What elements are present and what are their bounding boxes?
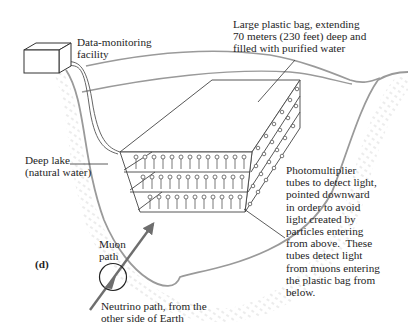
- panel-label: (d): [35, 258, 49, 270]
- facility-box: [24, 43, 71, 73]
- muon-label: Muon path: [99, 238, 126, 262]
- bag-label: Large plastic bag, extending 70 meters (…: [233, 18, 366, 55]
- neutrino-label: Neutrino path, from the other side of Ea…: [101, 300, 207, 324]
- detector-bag: [120, 80, 300, 212]
- lake-label: Deep lake (natural water): [25, 154, 91, 178]
- facility-label: Data-monitoring facility: [77, 36, 152, 60]
- tubes-label: Photomultiplier tubes to detect light, p…: [286, 164, 380, 298]
